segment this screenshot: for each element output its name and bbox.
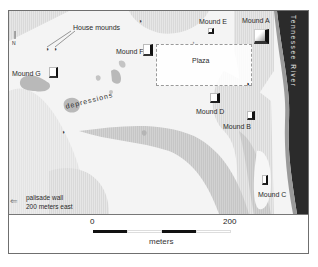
- scale-end-label: 200: [223, 217, 236, 226]
- house-mound-icon: ◗: [46, 46, 50, 52]
- house-mound-icon: ◗: [62, 129, 66, 135]
- house-mound-icon: ◗: [192, 40, 195, 45]
- house-mound-icon: ◗: [54, 46, 58, 52]
- mound-c-icon: [262, 175, 268, 185]
- mound-d-icon: [210, 93, 220, 103]
- house-mound-icon: ◗: [246, 80, 250, 87]
- mound-a-icon: [254, 29, 269, 44]
- mound-f-icon: [143, 44, 153, 56]
- mound-g-icon: [49, 67, 58, 78]
- site-map-frame: Plaza N House mounds ◗ ◗ ◗ ◗ ◗ ◗ depress…: [8, 10, 309, 254]
- arrow-left-icon: ⇐: [10, 197, 18, 206]
- house-mounds-label: House mounds: [73, 24, 120, 31]
- plaza-area: [156, 44, 252, 86]
- river-label: Tennessee River: [290, 15, 297, 87]
- scale-segment: [196, 230, 231, 233]
- mound-e-icon: [208, 28, 214, 34]
- mound-d-label: Mound D: [196, 108, 224, 115]
- palisade-label-line2: 200 meters east: [26, 204, 73, 211]
- scale-bar: 0 200 meters: [9, 215, 308, 253]
- north-label: N: [12, 41, 16, 46]
- scale-segment: [127, 230, 162, 233]
- scale-segment: [162, 230, 196, 233]
- mound-f-label: Mound F: [116, 48, 144, 55]
- mound-g-label: Mound G: [12, 70, 41, 77]
- mound-b-label: Mound B: [223, 123, 251, 130]
- mound-b-icon: [247, 111, 255, 120]
- scale-segment: [93, 230, 127, 233]
- scale-unit-label: meters: [149, 237, 173, 246]
- mound-a-label: Mound A: [242, 17, 270, 24]
- house-mound-icon: ◗: [139, 18, 143, 24]
- plaza-label: Plaza: [192, 57, 210, 64]
- site-map: Plaza N House mounds ◗ ◗ ◗ ◗ ◗ ◗ depress…: [9, 11, 308, 215]
- palisade-label-line1: palisade wall: [26, 195, 63, 202]
- mound-c-label: Mound C: [258, 191, 286, 198]
- scale-start-label: 0: [90, 217, 94, 226]
- mound-e-label: Mound E: [199, 18, 227, 25]
